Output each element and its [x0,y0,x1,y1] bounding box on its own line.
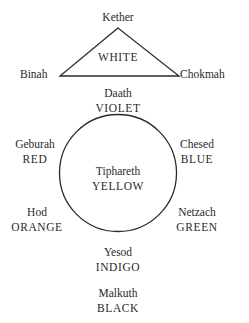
node-yesod: Yesod INDIGO [88,245,148,275]
node-kether: Kether [93,10,143,25]
node-name: Kether [93,10,143,25]
node-geburah: Geburah RED [10,137,60,167]
triangle-color-label: WHITE [88,50,148,65]
node-tiphareth: Tiphareth YELLOW [83,164,153,194]
node-binah: Binah [20,67,60,82]
node-daath: Daath VIOLET [88,86,148,116]
node-netzach: Netzach GREEN [170,205,224,235]
node-hod: Hod ORANGE [10,205,64,235]
node-chesed: Chesed BLUE [172,137,222,167]
node-malkuth: Malkuth BLACK [88,286,148,316]
node-chokmah: Chokmah [180,67,240,82]
